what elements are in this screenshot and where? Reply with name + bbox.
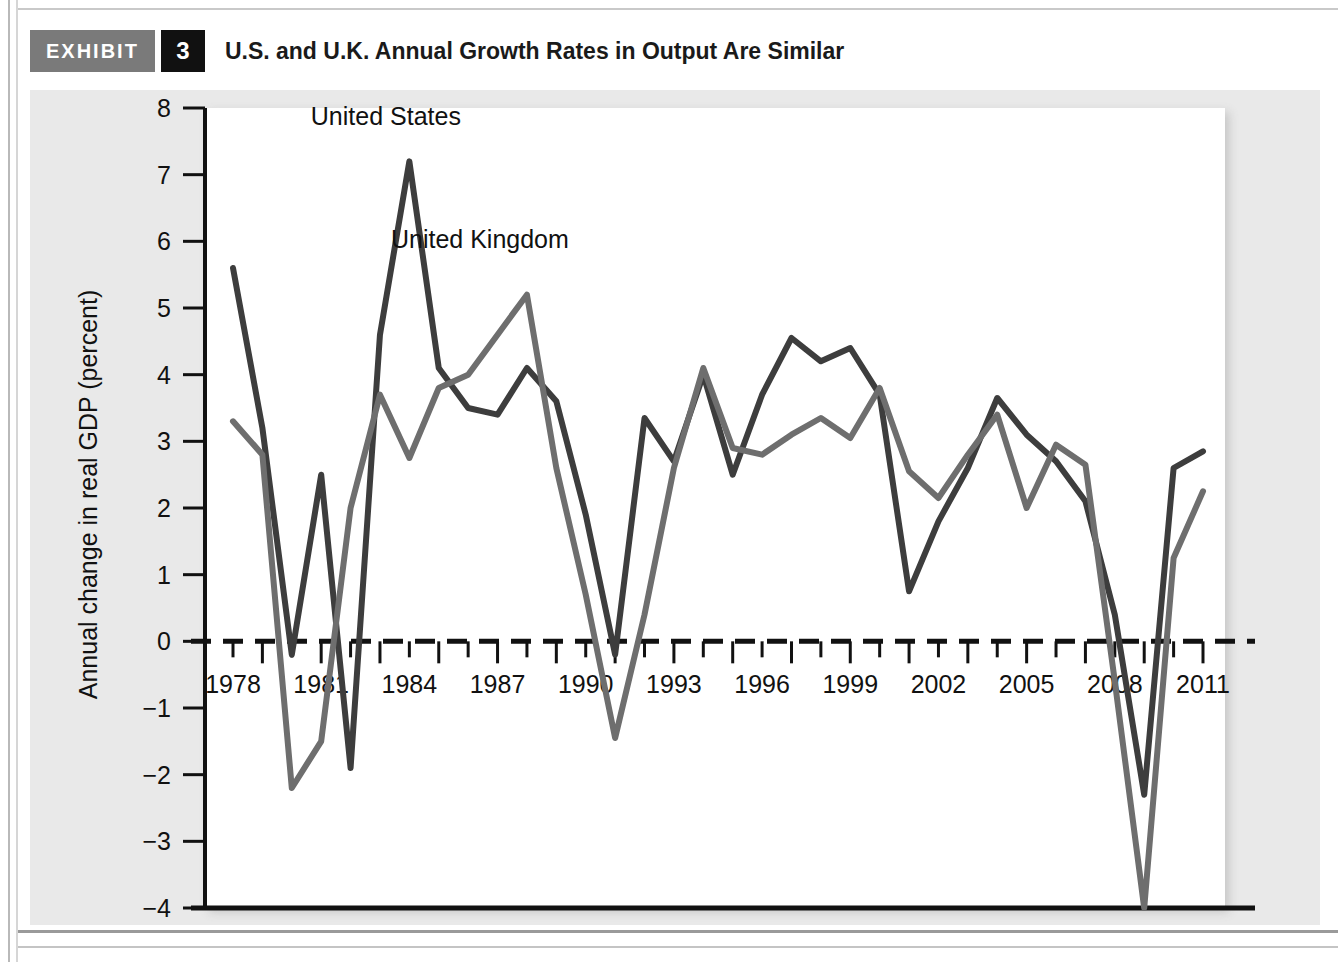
svg-text:1999: 1999 bbox=[822, 670, 878, 698]
svg-text:5: 5 bbox=[157, 294, 171, 322]
svg-text:1978: 1978 bbox=[205, 670, 261, 698]
svg-text:2002: 2002 bbox=[911, 670, 967, 698]
svg-text:6: 6 bbox=[157, 227, 171, 255]
exhibit-header: EXHIBIT 3 U.S. and U.K. Annual Growth Ra… bbox=[30, 30, 844, 72]
svg-text:1: 1 bbox=[157, 561, 171, 589]
page-rule-left-outer bbox=[8, 0, 10, 962]
exhibit-page: EXHIBIT 3 U.S. and U.K. Annual Growth Ra… bbox=[0, 0, 1338, 962]
line-chart: 876543210−1−2−3−4 1978198119841987199019… bbox=[30, 90, 1320, 925]
svg-text:3: 3 bbox=[157, 427, 171, 455]
page-rule-top bbox=[18, 8, 1338, 10]
y-axis-ticks: 876543210−1−2−3−4 bbox=[142, 94, 205, 922]
page-rule-bottom-inner bbox=[18, 946, 1338, 948]
svg-text:2011: 2011 bbox=[1176, 670, 1230, 698]
svg-text:4: 4 bbox=[157, 361, 171, 389]
svg-text:−1: −1 bbox=[142, 694, 171, 722]
svg-text:United States: United States bbox=[311, 102, 461, 130]
exhibit-tag-label: EXHIBIT bbox=[30, 30, 155, 72]
svg-text:1996: 1996 bbox=[734, 670, 790, 698]
exhibit-title: U.S. and U.K. Annual Growth Rates in Out… bbox=[225, 30, 844, 72]
series-labels: United StatesUnited Kingdom bbox=[311, 102, 569, 253]
chart-frame: Annual change in real GDP (percent) 8765… bbox=[30, 90, 1320, 925]
chart-inner: Annual change in real GDP (percent) 8765… bbox=[30, 90, 1320, 925]
svg-text:−2: −2 bbox=[142, 761, 171, 789]
series-lines bbox=[233, 161, 1203, 908]
svg-text:−3: −3 bbox=[142, 827, 171, 855]
svg-text:1993: 1993 bbox=[646, 670, 702, 698]
svg-text:1984: 1984 bbox=[382, 670, 438, 698]
svg-text:2005: 2005 bbox=[999, 670, 1055, 698]
svg-text:8: 8 bbox=[157, 94, 171, 122]
exhibit-number-badge: 3 bbox=[161, 30, 205, 72]
svg-text:0: 0 bbox=[157, 627, 171, 655]
svg-text:1987: 1987 bbox=[470, 670, 526, 698]
svg-text:7: 7 bbox=[157, 161, 171, 189]
svg-text:2: 2 bbox=[157, 494, 171, 522]
svg-text:−4: −4 bbox=[142, 894, 171, 922]
svg-text:United Kingdom: United Kingdom bbox=[391, 225, 569, 253]
page-rule-left-inner bbox=[16, 0, 18, 962]
page-rule-bottom-outer bbox=[18, 930, 1338, 933]
